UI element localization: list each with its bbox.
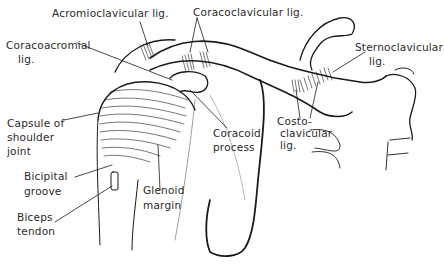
capsule-hatching	[100, 90, 188, 162]
label-coracoclavicular-lig: Coracoclavicular lig.	[193, 6, 303, 19]
label-acromioclavicular-lig: Acromioclavicular lig.	[52, 7, 169, 20]
label-glenoid-line2: margin	[143, 199, 181, 212]
coracoclavicular-hatching	[182, 52, 210, 72]
label-biceps-line2: tendon	[17, 225, 55, 238]
label-glenoid-line1: Glenoid	[143, 184, 185, 197]
label-coracoacromial-line1: Coracoacromial	[6, 39, 91, 52]
label-coracoid-line2: process	[213, 141, 255, 154]
scapula	[206, 80, 264, 256]
label-coracoid-line1: Coracoid	[213, 127, 261, 140]
label-capsule-line2: shoulder	[7, 131, 54, 144]
label-bicipital-line2: groove	[24, 185, 61, 198]
label-costoclavicular-line3: lig.	[280, 139, 297, 152]
first-rib	[300, 18, 354, 70]
label-capsule-line3: joint	[7, 145, 31, 158]
biceps-tendon	[111, 172, 118, 190]
clavicle	[150, 41, 386, 82]
label-sternoclavicular-line1: Sternoclavicular	[355, 41, 443, 54]
label-capsule-line1: Capsule of	[7, 117, 64, 130]
leader-lines	[55, 18, 365, 222]
sternum	[386, 75, 416, 141]
label-sternoclavicular-line2: lig.	[369, 55, 386, 68]
humerus-shaft	[97, 120, 100, 245]
label-bicipital-line1: Bicipital	[24, 170, 68, 183]
acromion	[115, 40, 175, 72]
shoulder-ligaments-diagram: Acromioclavicular lig. Coracoclavicular …	[0, 0, 444, 274]
label-biceps-line1: Biceps	[17, 211, 53, 224]
label-coracoacromial-line2: lig.	[18, 53, 35, 66]
